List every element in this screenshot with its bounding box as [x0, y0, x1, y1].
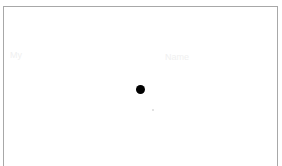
faint-label-center: Name: [165, 52, 189, 62]
faint-label-left: My: [10, 50, 22, 60]
faint-dot-marker: [152, 109, 154, 111]
cursor-dot-marker: [136, 85, 145, 94]
